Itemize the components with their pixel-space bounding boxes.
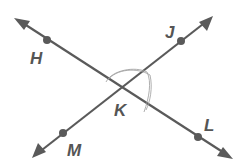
geometry-diagram: H J K L M [0,0,243,168]
point-l [194,133,202,141]
point-m [59,129,67,137]
label-l: L [204,116,214,135]
label-k: K [114,101,128,120]
line-hl [22,23,225,154]
label-h: H [30,49,43,68]
arrowhead-j-end [199,16,213,31]
point-h [43,36,51,44]
point-j [177,37,185,45]
arrowhead-m-end [32,143,46,158]
label-j: J [165,23,175,42]
arrowhead-h-end [14,18,30,30]
label-m: M [67,141,82,160]
